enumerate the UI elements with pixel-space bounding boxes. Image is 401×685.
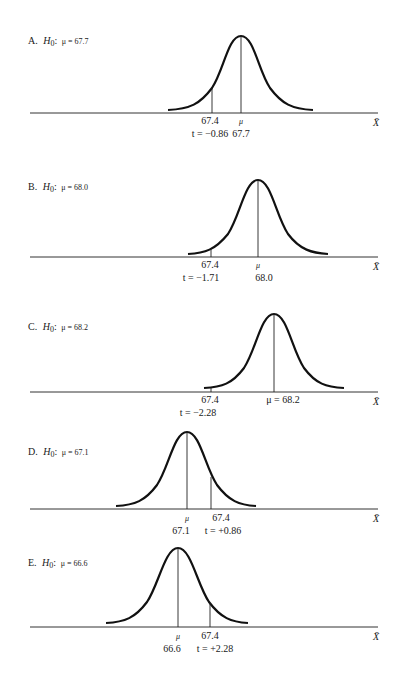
panel-d-normal-curve xyxy=(116,432,256,506)
panel-a-sample-label: 67.4 xyxy=(201,115,219,126)
panel-b-xbar-label: X̄ xyxy=(372,261,380,272)
panel-e-mu-value: 66.6 xyxy=(163,643,181,654)
panel-a-mu-symbol: μ xyxy=(238,117,243,126)
panel-e-t-label: t = +2.28 xyxy=(197,643,234,654)
panel-c-hypothesis-label: C. H0: μ = 68.2 xyxy=(28,321,88,334)
panel-a-hypothesis-label: A. H0: μ = 67.7 xyxy=(28,35,89,48)
hypothesis-test-figure: A. H0: μ = 67.7 67.4 μ t = −0.86 67.7 X̄… xyxy=(0,0,401,685)
panel-a-normal-curve xyxy=(168,36,313,110)
panel-d-t-label: t = +0.86 xyxy=(205,525,242,536)
panel-d-sample-label: 67.4 xyxy=(212,512,230,523)
panel-d-hypothesis-label: D. H0: μ = 67.1 xyxy=(28,446,89,459)
panel-d: D. H0: μ = 67.1 μ 67.4 67.1 t = +0.86 X̄ xyxy=(28,432,380,536)
panel-b-mu-value: 68.0 xyxy=(255,272,273,283)
panel-e-normal-curve xyxy=(106,548,248,623)
panel-d-mu-symbol: μ xyxy=(184,514,189,523)
panel-a: A. H0: μ = 67.7 67.4 μ t = −0.86 67.7 X̄ xyxy=(28,35,380,139)
panel-e: E. H0: μ = 66.6 μ 67.4 66.6 t = +2.28 X̄ xyxy=(28,548,380,654)
panel-e-xbar-label: X̄ xyxy=(372,631,380,642)
panel-b-t-label: t = −1.71 xyxy=(183,272,220,283)
panel-c-mu-axis-label: μ = 68.2 xyxy=(266,394,300,405)
panel-e-mu-symbol: μ xyxy=(175,632,180,641)
panel-c-t-label: t = −2.28 xyxy=(180,407,217,418)
panel-c-sample-label: 67.4 xyxy=(201,394,219,405)
panel-a-mu-value: 67.7 xyxy=(232,128,250,139)
panel-d-mu-value: 67.1 xyxy=(172,525,190,536)
panel-b-sample-label: 67.4 xyxy=(201,259,219,270)
panel-b-mu-symbol: μ xyxy=(255,261,260,270)
panel-c-xbar-label: X̄ xyxy=(372,396,380,407)
panel-a-xbar-label: X̄ xyxy=(372,117,380,128)
panel-a-t-label: t = −0.86 xyxy=(192,128,229,139)
panel-e-sample-label: 67.4 xyxy=(201,630,219,641)
panel-d-xbar-label: X̄ xyxy=(372,513,380,524)
panel-c: C. H0: μ = 68.2 67.4 μ = 68.2 t = −2.28 … xyxy=(28,314,380,418)
panel-b: B. H0: μ = 68.0 67.4 μ t = −1.71 68.0 X̄ xyxy=(28,180,380,283)
panel-e-hypothesis-label: E. H0: μ = 66.6 xyxy=(28,557,87,570)
panel-b-hypothesis-label: B. H0: μ = 68.0 xyxy=(28,181,88,194)
